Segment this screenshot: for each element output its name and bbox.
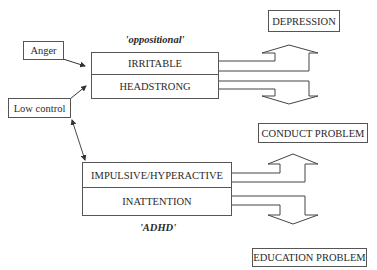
depression-box: DEPRESSION xyxy=(268,10,340,32)
low-control-box: Low control xyxy=(8,98,71,118)
education-problem-box: EDUCATION PROBLEM xyxy=(252,248,367,267)
impulsive-hyperactive-row: IMPULSIVE/HYPERACTIVE xyxy=(83,163,231,187)
headstrong-row: HEADSTRONG xyxy=(92,74,218,98)
headstrong-label: HEADSTRONG xyxy=(119,81,190,92)
adhd-caption: 'ADHD' xyxy=(140,222,176,233)
conduct-problem-label: CONDUCT PROBLEM xyxy=(262,128,365,139)
irritable-up-block-arrow xyxy=(218,45,318,71)
impulsive-up-block-arrow xyxy=(231,154,318,182)
adhd-group: IMPULSIVE/HYPERACTIVE INATTENTION xyxy=(82,162,232,216)
oppositional-group: IRRITABLE HEADSTRONG xyxy=(91,52,219,99)
headstrong-down-block-arrow xyxy=(218,81,318,104)
low-control-arrow xyxy=(70,86,86,99)
impulsive-hyperactive-label: IMPULSIVE/HYPERACTIVE xyxy=(91,170,223,181)
irritable-row: IRRITABLE xyxy=(92,53,218,74)
anger-label: Anger xyxy=(30,45,56,56)
low-control-label: Low control xyxy=(14,103,66,114)
inattention-row: INATTENTION xyxy=(83,187,231,215)
anger-box: Anger xyxy=(23,41,64,60)
conduct-problem-box: CONDUCT PROBLEM xyxy=(258,123,368,143)
inattention-label: INATTENTION xyxy=(122,196,191,207)
inattention-down-block-arrow xyxy=(231,196,318,224)
diagram-canvas: Anger Low control 'oppositional' IRRITAB… xyxy=(0,0,377,270)
depression-label: DEPRESSION xyxy=(272,16,336,27)
irritable-label: IRRITABLE xyxy=(128,58,182,69)
low-control-adhd-double-arrow xyxy=(72,120,85,160)
education-problem-label: EDUCATION PROBLEM xyxy=(253,252,365,263)
oppositional-caption: 'oppositional' xyxy=(126,34,185,45)
anger-arrow xyxy=(63,59,85,66)
